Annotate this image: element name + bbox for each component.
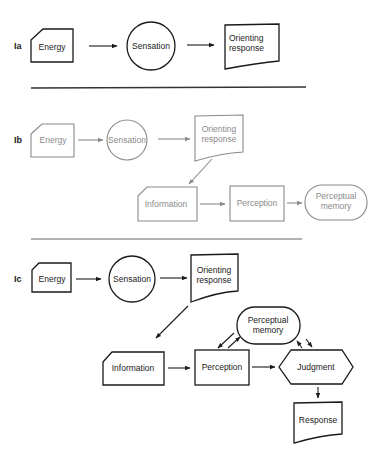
- node-sensation-ib: Sensation: [107, 120, 147, 160]
- node-sensation-ic: Sensation: [109, 256, 155, 302]
- node-label-line1: Perceptual: [316, 191, 357, 201]
- panel-ib: Ib Energy Sensation Orienting response I…: [14, 115, 367, 221]
- node-label-line2: memory: [253, 325, 284, 335]
- node-label-line2: response: [229, 43, 264, 53]
- node-label: Information: [145, 199, 188, 209]
- panel-label-ia: Ia: [14, 41, 23, 51]
- node-energy-ib: Energy: [31, 124, 74, 157]
- node-orienting-response-ia: Orienting response: [225, 24, 279, 69]
- node-response-ic: Response: [294, 402, 342, 443]
- node-label: Judgment: [297, 362, 335, 372]
- arrow-orienting-to-information: [189, 159, 212, 184]
- node-perception-ic: Perception: [195, 350, 249, 385]
- node-label-line2: response: [197, 275, 232, 285]
- node-label-line1: Orienting: [197, 265, 232, 275]
- node-label: Energy: [39, 42, 67, 52]
- node-sensation-ia: Sensation: [127, 22, 175, 70]
- node-energy-ia: Energy: [31, 29, 73, 62]
- panel-ic: Ic Energy Sensation Orienting response P…: [14, 254, 353, 443]
- node-energy-ic: Energy: [32, 263, 71, 292]
- node-information-ic: Information: [103, 352, 164, 385]
- node-label: Energy: [39, 274, 67, 284]
- node-perception-ib: Perception: [230, 186, 284, 221]
- node-label-line1: Orienting: [202, 124, 237, 134]
- node-perceptual-memory-ib: Perceptual memory: [305, 185, 367, 220]
- node-label: Sensation: [108, 135, 146, 145]
- node-label: Response: [299, 415, 338, 425]
- node-orienting-response-ib: Orienting response: [195, 115, 243, 161]
- node-label: Perception: [202, 362, 243, 372]
- node-label: Sensation: [132, 41, 170, 51]
- node-information-ib: Information: [138, 187, 197, 221]
- divider-1: [31, 87, 306, 88]
- node-label: Perception: [237, 198, 278, 208]
- arrow-memory-to-perception: [218, 333, 234, 348]
- node-label-line1: Perceptual: [248, 315, 289, 325]
- panel-label-ib: Ib: [14, 135, 23, 145]
- node-label-line2: memory: [321, 201, 352, 211]
- arrow-judgment-to-memory: [297, 341, 302, 348]
- flowchart-canvas: Ia Energy Sensation Orienting response I…: [0, 0, 386, 463]
- node-orienting-response-ic: Orienting response: [191, 254, 238, 302]
- node-perceptual-memory-ic: Perceptual memory: [237, 307, 300, 344]
- node-label: Sensation: [113, 274, 151, 284]
- panel-ia: Ia Energy Sensation Orienting response: [14, 22, 279, 70]
- arrow-memory-to-judgment: [306, 339, 312, 347]
- node-label-line1: Orienting: [229, 33, 264, 43]
- arrow-orienting-to-information: [156, 306, 188, 338]
- node-label: Energy: [40, 135, 68, 145]
- arrow-perception-to-memory: [228, 337, 240, 348]
- node-judgment-ic: Judgment: [279, 350, 353, 384]
- node-label-line2: response: [202, 134, 237, 144]
- panel-label-ic: Ic: [14, 274, 22, 284]
- node-label: Information: [112, 363, 155, 373]
